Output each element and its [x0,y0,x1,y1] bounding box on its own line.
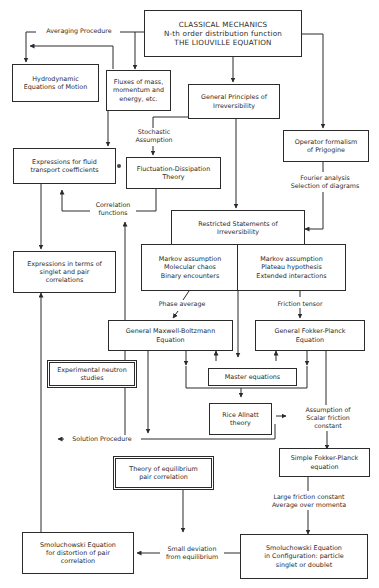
label-correlation-functions: Correlation functions [90,201,136,217]
label-large-friction: Large friction constant Average over mom… [264,493,354,509]
label-small-deviation: Small deviation from equilibrium [160,545,224,561]
label-phase-average: Phase average [156,300,208,308]
box-fluctuation-dissipation: Fluctuation-Dissipation Theory [126,157,221,189]
label-fourier-analysis: Fourier analysis Selection of diagrams [286,174,364,190]
box-expressions-singlet-text: Expressions in terms of singlet and pair… [27,260,102,285]
box-markov-plateau-text: Markov assumption Plateau hypothesis Ext… [256,255,326,280]
box-hydrodynamic: Hydrodynamic Equations of Motion [12,64,99,102]
box-smoluchowski-distortion: Smoluchowski Equation for distortion of … [22,532,134,574]
box-fluctuation-dissipation-text: Fluctuation-Dissipation Theory [137,165,210,181]
box-expressions-singlet: Expressions in terms of singlet and pair… [13,251,116,293]
label-friction-tensor: Friction tensor [272,300,328,308]
box-smoluchowski-configuration-text: Smoluchowski Equation in Configuration: … [264,544,343,569]
label-solution-procedure: Solution Procedure [64,435,140,443]
box-expressions-fluid: Expressions for fluid transport coeffici… [13,148,116,184]
box-experimental-neutron-text: Experimental neutron studies [57,366,127,382]
box-operator-formalism-text: Operator formalism of Prigogine [295,138,358,154]
box-operator-formalism: Operator formalism of Prigogine [283,130,369,162]
box-experimental-neutron: Experimental neutron studies [47,360,137,388]
box-master-equations: Master equations [208,368,297,386]
box-fokker-planck-general: General Fokker-Planck Equation [255,320,365,351]
box-simple-fokker-planck-text: Simple Fokker-Planck equation [291,454,359,470]
box-maxwell-boltzmann-text: General Maxwell-Boltzmann Equation [126,327,215,343]
box-master-equations-text: Master equations [225,373,280,381]
box-markov-molecular: Markov assumption Molecular chaos Binary… [141,244,239,291]
label-scalar-friction: Assumption of Scalar friction constant [296,406,360,430]
box-smoluchowski-distortion-text: Smoluchowski Equation for distortion of … [40,541,116,566]
label-stochastic-assumption: Stochastic Assumption [132,128,176,144]
box-simple-fokker-planck: Simple Fokker-Planck equation [279,448,370,477]
box-fluxes: Fluxes of mass, momentum and energy, etc… [106,70,171,111]
box-markov-molecular-text: Markov assumption Molecular chaos Binary… [159,255,221,280]
box-smoluchowski-configuration: Smoluchowski Equation in Configuration: … [240,534,368,579]
box-rice-allnatt-text: Rice Allnatt theory [222,411,259,427]
box-classical-mechanics-text: CLASSICAL MECHANICS N-th order distribut… [164,20,282,47]
box-expressions-fluid-text: Expressions for fluid transport coeffici… [30,158,98,174]
box-maxwell-boltzmann: General Maxwell-Boltzmann Equation [108,320,233,351]
box-general-principles-text: General Principles of Irreversibility [201,93,267,109]
box-classical-mechanics: CLASSICAL MECHANICS N-th order distribut… [144,10,302,57]
label-averaging-procedure: Averaging Procedure [38,27,120,35]
box-markov-plateau: Markov assumption Plateau hypothesis Ext… [237,244,346,291]
box-restricted-statements: Restricted Statements of Irreversibility [171,210,305,246]
box-fokker-planck-general-text: General Fokker-Planck Equation [274,327,345,343]
box-equilibrium-pair-text: Theory of equilibrium pair correlation [129,465,198,481]
box-hydrodynamic-text: Hydrodynamic Equations of Motion [24,75,88,91]
flowchart-canvas: CLASSICAL MECHANICS N-th order distribut… [0,0,379,588]
box-rice-allnatt: Rice Allnatt theory [209,403,272,435]
box-general-principles: General Principles of Irreversibility [188,84,280,119]
box-restricted-statements-text: Restricted Statements of Irreversibility [198,220,278,236]
decorative-mark-icon [117,164,121,168]
box-equilibrium-pair: Theory of equilibrium pair correlation [113,456,214,490]
box-fluxes-text: Fluxes of mass, momentum and energy, etc… [113,78,164,103]
